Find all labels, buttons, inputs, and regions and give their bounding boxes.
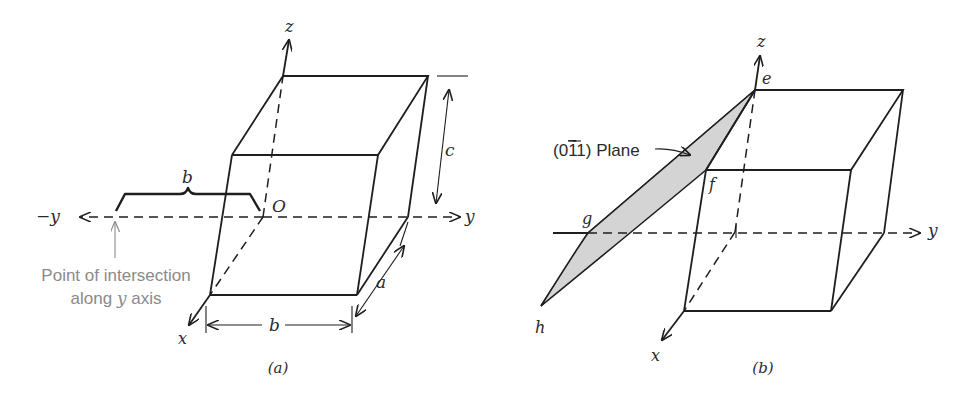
point-e-label: e [762,69,771,88]
cell-top-face [706,90,903,170]
a-label: a [376,272,386,292]
x-axis [189,295,210,325]
y-axis-label: y [927,220,938,240]
plane-label: (011) Plane [553,141,640,160]
neg-y-axis-label: −y [36,206,60,226]
panel-b: (011) Plane e f g h z y x (b) [535,32,938,377]
cell-back-right-edge [884,90,903,233]
x-axis-hidden [210,217,263,295]
x-axis-hidden [684,232,735,311]
b-brace-label: b [182,167,193,187]
cell-front-right-edge [831,170,851,311]
b-brace [116,188,260,211]
cell-front-left-edge [684,170,706,311]
z-axis [283,40,289,76]
a-tick [400,222,408,246]
y-axis-label: y [464,206,475,226]
caption-b: (b) [752,359,773,377]
point-g-label: g [582,209,592,228]
cell-front-left-edge [210,155,232,295]
x-axis-label: x [178,329,187,348]
c-label: c [445,140,455,160]
plane-0-1bar-1-fill [541,90,755,306]
cell-top-face [232,76,428,155]
z-axis-label: z [756,32,766,51]
x-axis [662,311,684,340]
x-axis-label: x [651,346,660,365]
caption-a: (a) [268,359,289,377]
point-h-label: h [535,318,545,337]
panel-a: c a b b O z y −y x Point of intersection… [36,17,475,377]
z-axis [755,56,760,90]
cell-front-right-edge [357,155,378,295]
z-axis-label: z [284,17,294,36]
cell-bottom-right-edge [831,233,884,311]
intersection-annotation-line2: along y axis [71,288,162,308]
origin-label: O [272,196,286,216]
intersection-annotation-line1: Point of intersection [41,266,190,285]
unit-cell-figure: c a b b O z y −y x Point of intersection… [0,0,958,405]
point-f-label: f [708,175,718,194]
cell-back-right-edge [408,76,428,217]
b-bottom-label: b [269,315,280,335]
